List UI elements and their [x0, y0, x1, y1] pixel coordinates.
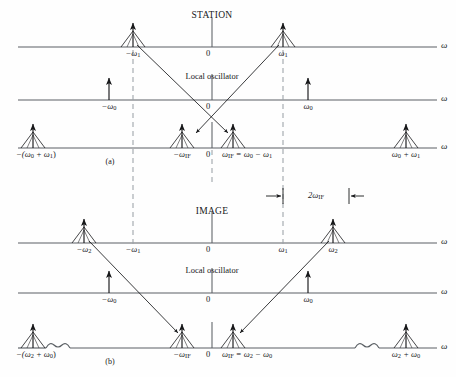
origin-b-if: 0 [206, 350, 210, 359]
label-b-if-neg-sum-p2: + ω [34, 349, 50, 359]
mixing-arrows-a [137, 45, 279, 133]
label-b-rf-tick-neg-w1-sub: 1 [137, 247, 140, 254]
label-a-if-neg-sum-p3: ) [53, 149, 56, 159]
impulse-b-if-neg-sum [21, 324, 45, 348]
label-b-if-neg-wif-base: −ω [173, 349, 185, 359]
label-a-lo-neg-w0-base: −ω [102, 101, 114, 111]
panel-b-tag: (b) [105, 358, 114, 366]
label-b-rf-pos-w2-sub: 2 [334, 247, 337, 254]
label-b-if-neg-wif: −ωIF [173, 350, 190, 360]
impulses-a-if [21, 124, 418, 148]
bandwidth-label: 2ωIF [308, 191, 324, 201]
label-a-rf-neg-w1: −ω1 [126, 49, 141, 59]
label-b-if-pos-wif: ωIF = ω2 − ω0 [222, 350, 272, 360]
label-a-if-pos-sum-p2: + ω [401, 149, 417, 159]
label-a-if-neg-sum: −(ω0 + ω1) [16, 150, 56, 160]
label-b-rf-tick-pos-w1: ω1 [278, 245, 287, 255]
origin-b-rf: 0 [206, 245, 210, 254]
label-a-if-pos-wif-p2: = ω [234, 149, 250, 159]
impulses-a-rf [121, 23, 295, 47]
image-title: IMAGE [196, 207, 229, 217]
label-a-if-neg-sum-p2: + ω [34, 149, 50, 159]
label-b-rf-pos-w2: ω2 [328, 245, 337, 255]
label-a-if-pos-sum-s2: 1 [417, 152, 420, 159]
impulse-a-if-neg-sum [21, 124, 45, 148]
axis-label-a-rf: ω [441, 41, 447, 50]
impulse-b-rf-pos-w2 [321, 219, 345, 243]
label-a-if-pos-sum: ω0 + ω1 [392, 150, 420, 160]
label-b-if-neg-wif-sub: IF [185, 352, 191, 359]
label-b-if-neg-sum-p1: −(ω [16, 349, 31, 359]
impulse-a-if-pos-wif [221, 124, 245, 148]
impulses-a-lo [109, 78, 308, 100]
impulse-a-rf-pos-w1 [271, 23, 295, 47]
label-a-if-neg-sum-p1: −(ω [16, 149, 31, 159]
axis-label-a-if: ω [441, 142, 447, 151]
label-b-lo-pos-w0-sub: 0 [309, 297, 312, 304]
label-a-if-neg-wif: −ωIF [173, 150, 190, 160]
origin-a-rf: 0 [206, 49, 210, 58]
label-a-if-pos-wif: ωIF = ω0 − ω1 [222, 150, 272, 160]
label-a-rf-pos-w1: ω1 [278, 49, 287, 59]
origin-b-lo: 0 [206, 295, 210, 304]
impulse-a-if-pos-sum [394, 124, 418, 148]
label-a-lo-neg-w0-sub: 0 [113, 104, 116, 111]
impulse-b-if-neg-wif [170, 324, 194, 348]
label-b-lo-neg-w0-sub: 0 [113, 297, 116, 304]
bandwidth-label-sub: IF [318, 193, 324, 200]
label-a-rf-neg-w1-sub: 1 [137, 51, 140, 58]
label-b-if-pos-sum: ω2 + ω0 [392, 350, 420, 360]
label-a-lo-pos-w0: ω0 [303, 102, 312, 112]
label-b-if-neg-sum: −(ω2 + ω0) [16, 350, 56, 360]
label-b-rf-tick-pos-w1-sub: 1 [284, 247, 287, 254]
impulse-b-rf-neg-w2 [72, 219, 96, 243]
figure-superheterodyne-spectra: STATION Local oscillator 0 0 0 ω ω ω −ω1… [0, 0, 456, 377]
mix-a-from-negw1 [137, 45, 228, 133]
local-oscillator-label-a: Local oscillator [185, 72, 238, 81]
label-a-if-neg-wif-sub: IF [185, 152, 191, 159]
panel-a-tag: (a) [106, 158, 115, 166]
station-title: STATION [192, 11, 233, 21]
axis-break-left [46, 344, 70, 348]
origin-a-lo: 0 [206, 102, 210, 111]
label-b-rf-neg-w2: −ω2 [77, 245, 92, 255]
label-b-rf-neg-w2-sub: 2 [88, 247, 91, 254]
impulse-a-rf-neg-w1 [121, 23, 145, 47]
impulse-b-if-pos-wif [221, 324, 245, 348]
axis-label-b-lo: ω [441, 287, 447, 296]
label-b-if-pos-wif-p3: − ω [253, 349, 269, 359]
origin-a-if: 0 [206, 150, 210, 159]
label-b-rf-tick-neg-w1: −ω1 [126, 245, 141, 255]
axis-lines [18, 47, 437, 293]
axis-label-b-rf: ω [441, 237, 447, 246]
label-a-lo-pos-w0-sub: 0 [309, 104, 312, 111]
label-b-if-neg-sum-p3: ) [53, 349, 56, 359]
label-b-rf-neg-w2-base: −ω [77, 244, 89, 254]
label-b-if-pos-sum-p2: + ω [401, 349, 417, 359]
impulses-b-rf [72, 219, 345, 243]
label-a-lo-neg-w0: −ω0 [102, 102, 117, 112]
axis-break-right [355, 344, 379, 348]
bandwidth-label-base: 2ω [308, 190, 318, 200]
axis-label-b-if: ω [441, 342, 447, 351]
mix-a-from-posw1 [196, 45, 279, 133]
label-b-if-pos-wif-s3: 0 [269, 352, 272, 359]
label-b-lo-neg-w0-base: −ω [102, 294, 114, 304]
label-a-rf-neg-w1-base: −ω [126, 48, 138, 58]
axis-label-a-lo: ω [441, 94, 447, 103]
label-a-rf-pos-w1-sub: 1 [284, 51, 287, 58]
label-b-lo-neg-w0: −ω0 [102, 295, 117, 305]
label-a-if-neg-wif-base: −ω [173, 149, 185, 159]
label-b-lo-pos-w0: ω0 [303, 295, 312, 305]
impulse-b-if-pos-sum [394, 324, 418, 348]
label-a-if-pos-wif-p3: − ω [253, 149, 269, 159]
impulse-a-if-neg-wif [170, 124, 194, 148]
label-b-if-pos-sum-s2: 0 [417, 352, 420, 359]
local-oscillator-label-b: Local oscillator [185, 266, 238, 275]
label-a-if-pos-wif-s3: 1 [269, 152, 272, 159]
figure-canvas [0, 0, 456, 377]
label-b-rf-tick-neg-w1-base: −ω [126, 244, 138, 254]
label-b-if-pos-wif-p2: = ω [234, 349, 250, 359]
